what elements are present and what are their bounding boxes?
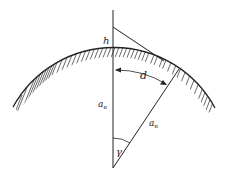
angle-arc	[113, 138, 130, 143]
tangent-line	[113, 27, 164, 61]
radius-subscript: e	[154, 122, 158, 129]
diagram-graphics	[0, 0, 227, 180]
radius-subscript: e	[103, 103, 107, 110]
earth-curvature-diagram: h d ae ae γ	[0, 0, 227, 180]
label-ae-vertical: ae	[98, 100, 107, 110]
arrowhead-left-icon	[115, 68, 121, 73]
label-d: d	[140, 70, 147, 81]
label-h: h	[103, 36, 109, 46]
label-ae-slanted: ae	[149, 119, 158, 129]
earth-surface-hatching	[0, 25, 224, 125]
label-gamma: γ	[116, 147, 122, 157]
horizon-radius-line	[113, 69, 179, 168]
